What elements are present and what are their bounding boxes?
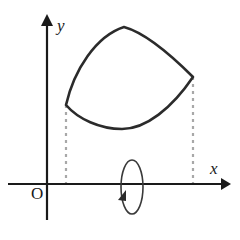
rotation-indicator-group: [118, 160, 143, 214]
diagram-svg: [0, 0, 240, 240]
x-axis-arrowhead-icon: [221, 178, 231, 190]
figure-canvas: y x O: [0, 0, 240, 240]
projection-lines-group: [66, 77, 193, 184]
closed-region-curve: [66, 27, 193, 129]
origin-label: O: [31, 185, 43, 202]
x-axis-label: x: [210, 160, 218, 177]
revolution-ellipse-icon: [121, 160, 143, 214]
y-axis-label: y: [57, 17, 65, 34]
revolution-arrowhead-icon: [118, 190, 126, 201]
y-axis-arrowhead-icon: [41, 14, 53, 26]
